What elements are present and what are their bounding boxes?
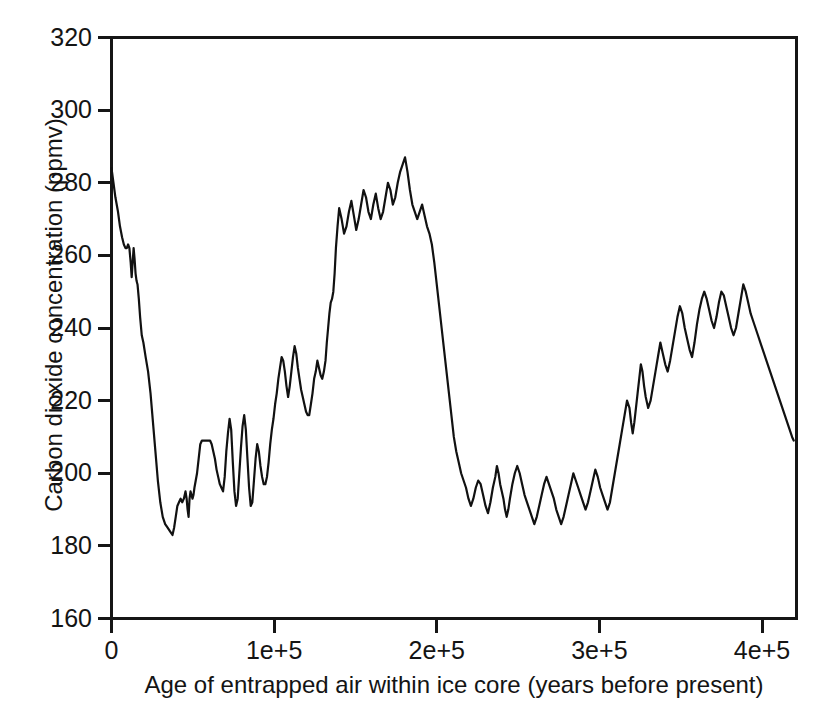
y-axis-tick-mark [98,617,110,620]
plot-top-border [110,36,798,39]
y-axis-title: Carbon dioxide concentration (ppmv) [41,85,67,545]
y-axis-tick-label: 160 [34,606,92,631]
x-axis-tick-mark [273,620,276,633]
co2-ice-core-chart-figure: 320300280260240220200180160 01e+52e+53e+… [0,0,825,710]
y-axis-tick-mark [98,254,110,257]
y-axis-tick-mark [98,109,110,112]
x-axis-tick-mark [110,620,113,633]
plot-right-border [795,36,798,620]
y-axis-tick-mark [98,544,110,547]
y-axis-tick-mark [98,399,110,402]
y-axis-line [110,36,113,620]
y-axis-tick-mark [98,181,110,184]
x-axis-tick-mark [598,620,601,633]
x-axis-tick-label: 2e+5 [409,636,465,664]
y-axis-tick-mark [98,327,110,330]
co2-series-svg [0,0,825,710]
x-axis-title: Age of entrapped air within ice core (ye… [110,672,798,698]
y-axis-tick-mark [98,36,110,39]
x-axis-tick-label: 4e+5 [734,636,790,664]
y-axis-tick-label: 320 [34,25,92,50]
x-axis-line [110,617,798,620]
x-axis-tick-mark [435,620,438,633]
x-axis-tick-label: 3e+5 [571,636,627,664]
y-axis-tick-mark [98,472,110,475]
x-axis-tick-label: 1e+5 [246,636,302,664]
co2-line-series [112,157,794,535]
x-axis-tick-label: 0 [105,636,119,664]
x-axis-tick-mark [761,620,764,633]
